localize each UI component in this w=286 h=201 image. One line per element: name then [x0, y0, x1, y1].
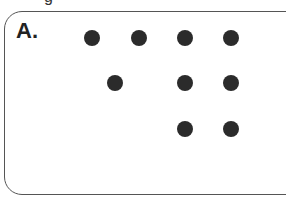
dot-icon [107, 75, 123, 91]
dot-icon [84, 30, 100, 46]
dot-icon [177, 121, 193, 137]
dot-icon [223, 75, 239, 91]
dot-icon [177, 75, 193, 91]
dot-icon [131, 30, 147, 46]
panel-label: A. [16, 18, 38, 44]
dot-icon [177, 30, 193, 46]
partial-header-text: g [44, 0, 53, 6]
dot-icon [223, 121, 239, 137]
dot-icon [223, 30, 239, 46]
